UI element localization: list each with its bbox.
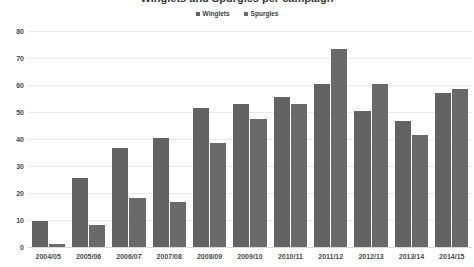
x-axis-tick-label: 2010/11	[270, 252, 310, 261]
bar-group	[109, 31, 149, 247]
bar-winglets-2007-08[interactable]	[153, 138, 169, 247]
bar-winglets-2014-15[interactable]	[435, 93, 451, 247]
bar-winglets-2005-06[interactable]	[72, 178, 88, 247]
bar-group	[28, 31, 68, 247]
y-axis-tick-label: 80	[2, 28, 24, 35]
gridline	[28, 247, 472, 248]
bar-spurgles-2014-15[interactable]	[452, 89, 468, 247]
bar-spurgles-2013-14[interactable]	[412, 135, 428, 247]
bar-spurgles-2011-12[interactable]	[331, 49, 347, 247]
bar-group	[68, 31, 108, 247]
legend-swatch-icon	[244, 12, 248, 16]
bar-spurgles-2007-08[interactable]	[170, 202, 186, 247]
bar-winglets-2013-14[interactable]	[395, 121, 411, 247]
bar-winglets-2009-10[interactable]	[233, 104, 249, 247]
y-axis-tick-label: 10	[2, 217, 24, 224]
x-axis-tick-label: 2014/15	[432, 252, 472, 261]
x-axis-tick-label: 2007/08	[149, 252, 189, 261]
x-axis-tick-label: 2012/13	[351, 252, 391, 261]
x-axis-labels: 2004/052005/062006/072007/082008/092009/…	[28, 252, 472, 261]
bar-group	[311, 31, 351, 247]
bar-group	[230, 31, 270, 247]
bar-group	[189, 31, 229, 247]
bar-spurgles-2004-05[interactable]	[49, 244, 65, 247]
bar-spurgles-2009-10[interactable]	[250, 119, 266, 247]
y-axis-tick-label: 60	[2, 82, 24, 89]
x-axis-tick-label: 2006/07	[109, 252, 149, 261]
bar-winglets-2006-07[interactable]	[112, 148, 128, 247]
bar-spurgles-2005-06[interactable]	[89, 225, 105, 247]
bar-winglets-2011-12[interactable]	[314, 84, 330, 247]
x-axis-tick-label: 2009/10	[230, 252, 270, 261]
chart-legend: WingletsSpurgles	[0, 9, 474, 19]
x-axis-tick-label: 2004/05	[28, 252, 68, 261]
bar-winglets-2010-11[interactable]	[274, 97, 290, 247]
bar-winglets-2008-09[interactable]	[193, 108, 209, 247]
legend-label: Spurgles	[251, 9, 279, 19]
y-axis-tick-label: 40	[2, 136, 24, 143]
bar-group	[149, 31, 189, 247]
bars-layer	[28, 31, 472, 247]
y-axis-tick-label: 70	[2, 55, 24, 62]
bar-winglets-2012-13[interactable]	[354, 111, 370, 247]
bar-group	[391, 31, 431, 247]
legend-item-winglets[interactable]: Winglets	[196, 9, 230, 19]
x-axis-tick-label: 2005/06	[68, 252, 108, 261]
bar-spurgles-2012-13[interactable]	[372, 84, 388, 247]
x-axis-tick-label: 2013/14	[391, 252, 431, 261]
bar-group	[270, 31, 310, 247]
chart-title: Winglets and Spurgles per campaign	[0, 0, 474, 4]
legend-item-spurgles[interactable]: Spurgles	[244, 9, 279, 19]
bar-spurgles-2008-09[interactable]	[210, 143, 226, 247]
y-axis-tick-label: 30	[2, 163, 24, 170]
x-axis-tick-label: 2008/09	[189, 252, 229, 261]
bar-chart: Winglets and Spurgles per campaign Wingl…	[0, 0, 474, 267]
bar-group	[432, 31, 472, 247]
bar-group	[351, 31, 391, 247]
y-axis-tick-label: 20	[2, 190, 24, 197]
y-axis-tick-label: 50	[2, 109, 24, 116]
bar-spurgles-2006-07[interactable]	[129, 198, 145, 247]
bar-winglets-2004-05[interactable]	[32, 221, 48, 247]
bar-spurgles-2010-11[interactable]	[291, 104, 307, 247]
legend-label: Winglets	[203, 9, 230, 19]
x-axis-tick-label: 2011/12	[311, 252, 351, 261]
legend-swatch-icon	[196, 12, 200, 16]
y-axis-tick-label: 0	[2, 244, 24, 251]
